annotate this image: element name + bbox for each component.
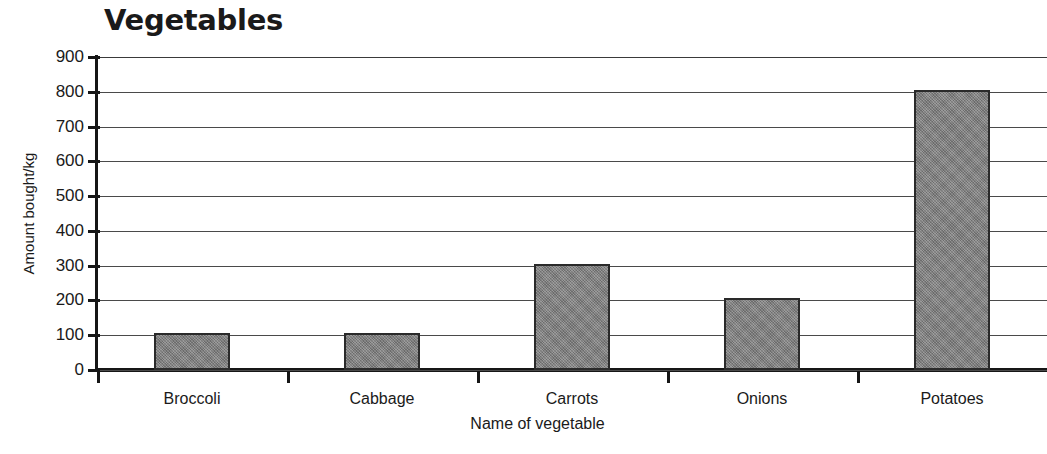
y-tick-label: 900 [20, 48, 84, 65]
bar [154, 333, 230, 370]
y-tick-label: 200 [20, 291, 84, 308]
y-tick-300 [88, 265, 100, 268]
y-tick-400 [88, 230, 100, 233]
gridline-800 [97, 92, 1047, 93]
x-tick [857, 372, 860, 383]
x-tick [97, 372, 100, 383]
y-tick-label: 500 [20, 187, 84, 204]
gridline-700 [97, 127, 1047, 128]
gridline-400 [97, 231, 1047, 232]
y-axis-line [95, 55, 98, 372]
y-tick-label: 800 [20, 83, 84, 100]
x-category-label: Carrots [477, 390, 667, 408]
y-tick-label: 700 [20, 118, 84, 135]
x-tick [477, 372, 480, 383]
x-category-label: Broccoli [97, 390, 287, 408]
y-tick-label: 400 [20, 222, 84, 239]
x-axis-title-wrap: Name of vegetable [0, 415, 1047, 433]
gridline-600 [97, 161, 1047, 162]
y-tick-label: 100 [20, 326, 84, 343]
bar [344, 333, 420, 370]
y-tick-500 [88, 195, 100, 198]
gridline-500 [97, 196, 1047, 197]
x-category-label: Onions [667, 390, 857, 408]
y-tick-700 [88, 126, 100, 129]
x-category-label: Cabbage [287, 390, 477, 408]
gridline-0 [97, 370, 1047, 371]
bar-chart-figure: Vegetables Amount bought/kg 900800700600… [0, 0, 1047, 454]
bar [914, 90, 990, 370]
x-tick [667, 372, 670, 383]
bar [724, 298, 800, 370]
x-category-label: Potatoes [857, 390, 1047, 408]
y-tick-800 [88, 91, 100, 94]
y-tick-100 [88, 334, 100, 337]
y-tick-label: 300 [20, 257, 84, 274]
y-tick-label: 600 [20, 152, 84, 169]
x-axis-title: Name of vegetable [470, 415, 604, 433]
x-tick [287, 372, 290, 383]
y-tick-900 [88, 56, 100, 59]
gridline-900 [97, 57, 1047, 58]
y-tick-label: 0 [20, 361, 84, 378]
chart-title: Vegetables [104, 2, 283, 38]
bar [534, 264, 610, 370]
y-tick-600 [88, 160, 100, 163]
y-tick-200 [88, 299, 100, 302]
